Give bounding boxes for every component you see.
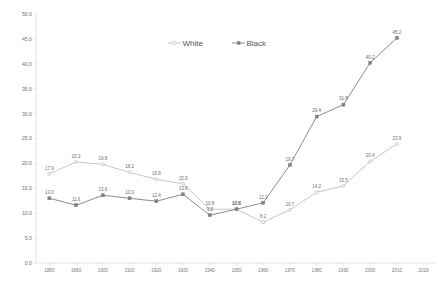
data-label: 18.2 [125, 164, 134, 169]
data-point-labels: 17.920.319.818.216.815.910.810.88.210.71… [45, 30, 402, 219]
data-point [75, 160, 78, 163]
x-tick-label: 1920 [151, 268, 162, 273]
data-label: 15.9 [179, 176, 188, 181]
y-tick-label: 0.0 [25, 260, 32, 266]
data-point [155, 200, 158, 203]
data-label: 11.6 [72, 197, 81, 202]
data-point [369, 61, 372, 64]
data-point [342, 184, 345, 187]
y-tick-label: 30.0 [22, 111, 32, 117]
data-label: 17.9 [45, 166, 54, 171]
line-chart: 0.05.010.015.020.025.030.035.040.045.050… [0, 0, 443, 295]
x-tick-label: 1930 [178, 268, 189, 273]
data-point [235, 208, 238, 211]
data-point [101, 194, 104, 197]
chart-legend: WhiteBlack [168, 39, 267, 48]
data-label: 9.6 [207, 207, 214, 212]
y-tick-label: 15.0 [22, 185, 32, 191]
data-label: 12.1 [259, 195, 268, 200]
x-tick-label: 1940 [205, 268, 216, 273]
data-point [101, 163, 104, 166]
y-axis: 0.05.010.015.020.025.030.035.040.045.050… [22, 11, 36, 266]
data-point [48, 172, 51, 175]
data-point [262, 221, 265, 224]
y-tick-label: 45.0 [22, 36, 32, 42]
legend-label-white: White [183, 39, 204, 48]
y-tick-label: 35.0 [22, 86, 32, 92]
data-point [128, 197, 131, 200]
data-label: 15.5 [339, 178, 348, 183]
data-point [182, 193, 185, 196]
data-label: 19.7 [286, 157, 295, 162]
data-label: 40.2 [366, 55, 375, 60]
data-label: 23.9 [393, 136, 402, 141]
data-point [208, 214, 211, 217]
x-tick-label: 1910 [124, 268, 135, 273]
chart-container: 0.05.010.015.020.025.030.035.040.045.050… [0, 0, 443, 295]
data-point [182, 182, 185, 185]
data-point [315, 191, 318, 194]
data-label: 10.8 [205, 201, 214, 206]
x-tick-label: 2000 [365, 268, 376, 273]
data-point [342, 103, 345, 106]
data-label: 45.2 [393, 30, 402, 35]
data-label: 10.8 [232, 201, 241, 206]
x-tick-label: 1880 [44, 268, 55, 273]
x-axis: 1880189019001910192019301940195019601970… [36, 263, 437, 273]
x-tick-label: 1980 [312, 268, 323, 273]
x-tick-label: 1960 [258, 268, 269, 273]
data-label: 29.4 [312, 108, 321, 113]
x-tick-label: 1970 [285, 268, 296, 273]
data-point [155, 178, 158, 181]
data-point [262, 201, 265, 204]
data-point [128, 171, 131, 174]
data-point [395, 36, 398, 39]
data-label: 16.8 [152, 171, 161, 176]
data-label: 20.4 [366, 153, 375, 158]
data-point [315, 115, 318, 118]
data-point [395, 142, 398, 145]
data-label: 13.0 [45, 190, 54, 195]
data-label: 14.2 [312, 184, 321, 189]
legend-marker [237, 41, 240, 44]
data-label: 12.4 [152, 193, 161, 198]
series-lines [48, 36, 399, 223]
data-label: 20.3 [72, 154, 81, 159]
y-tick-label: 10.0 [22, 210, 32, 216]
y-tick-label: 5.0 [25, 235, 32, 241]
x-tick-label: 1990 [338, 268, 349, 273]
y-tick-label: 50.0 [22, 11, 32, 17]
data-point [288, 163, 291, 166]
data-point [288, 208, 291, 211]
data-label: 13.0 [125, 190, 134, 195]
y-tick-label: 20.0 [22, 160, 32, 166]
data-point [75, 204, 78, 207]
legend-label-black: Black [247, 39, 268, 48]
y-tick-label: 40.0 [22, 61, 32, 67]
data-label: 8.2 [260, 214, 267, 219]
x-tick-label: 2010 [392, 268, 403, 273]
data-label: 31.8 [339, 96, 348, 101]
x-tick-label: 1950 [231, 268, 242, 273]
data-label: 13.6 [98, 187, 107, 192]
y-tick-label: 25.0 [22, 135, 32, 141]
legend-marker [173, 41, 176, 44]
data-label: 13.8 [179, 186, 188, 191]
x-tick-label: 2020 [419, 268, 430, 273]
data-label: 10.7 [286, 202, 295, 207]
x-tick-label: 1900 [98, 268, 109, 273]
data-point [369, 160, 372, 163]
data-label: 19.8 [98, 156, 107, 161]
data-point [48, 197, 51, 200]
x-tick-label: 1890 [71, 268, 82, 273]
